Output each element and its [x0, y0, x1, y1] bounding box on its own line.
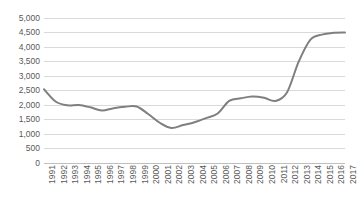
y-axis: 05001,0001,5002,0002,5003,0003,5004,0004…: [0, 0, 40, 202]
x-axis-tick-label: 2010: [268, 165, 277, 184]
x-axis-tick-label: 2002: [175, 165, 184, 184]
x-axis-tick-label: 2015: [326, 165, 335, 184]
y-axis-tick-label: 1,500: [0, 115, 40, 124]
y-axis-tick-label: 500: [0, 144, 40, 153]
x-axis-tick-label: 1996: [106, 165, 115, 184]
y-axis-tick-label: 4,500: [0, 28, 40, 37]
x-axis-tick-label: 1999: [141, 165, 150, 184]
x-axis-tick-label: 2011: [280, 165, 289, 183]
x-axis-tick-label: 2000: [152, 165, 161, 184]
x-axis-tick-label: 2014: [314, 165, 323, 184]
y-axis-tick-label: 4,000: [0, 42, 40, 51]
x-axis-tick-label: 2008: [245, 165, 254, 184]
y-axis-tick-label: 1,000: [0, 130, 40, 139]
x-axis-tick-label: 2017: [349, 165, 358, 184]
x-axis-tick-label: 2005: [210, 165, 219, 184]
series-line-1: [44, 32, 345, 127]
x-axis: 1991199219931994199519961997199819992000…: [44, 165, 345, 202]
x-axis-tick-label: 2012: [291, 165, 300, 184]
x-axis-tick-label: 2004: [199, 165, 208, 184]
x-axis-tick-label: 2006: [222, 165, 231, 184]
x-axis-tick-label: 2007: [233, 165, 242, 184]
x-axis-tick-label: 1995: [94, 165, 103, 184]
y-axis-tick-label: 2,500: [0, 86, 40, 95]
y-axis-tick-label: 2,000: [0, 101, 40, 110]
x-axis-tick-label: 2001: [164, 165, 173, 184]
series-line-group: [44, 18, 345, 164]
gridline: [44, 163, 345, 164]
x-axis-tick-label: 2003: [187, 165, 196, 184]
plot-area: [44, 18, 345, 164]
y-axis-tick-label: 3,000: [0, 71, 40, 80]
x-axis-tick-label: 2009: [256, 165, 265, 184]
x-axis-tick-label: 1991: [48, 165, 57, 184]
x-axis-tick-label: 1997: [117, 165, 126, 184]
x-axis-tick-label: 1993: [71, 165, 80, 184]
x-axis-tick-label: 1998: [129, 165, 138, 184]
y-axis-tick-label: 5,000: [0, 13, 40, 22]
x-axis-tick-label: 1992: [60, 165, 69, 184]
y-axis-tick-label: 0: [0, 159, 40, 168]
x-axis-tick-label: 2013: [303, 165, 312, 184]
y-axis-tick-label: 3,500: [0, 57, 40, 66]
x-axis-tick-label: 2016: [337, 165, 346, 184]
x-axis-tick-label: 1994: [83, 165, 92, 184]
